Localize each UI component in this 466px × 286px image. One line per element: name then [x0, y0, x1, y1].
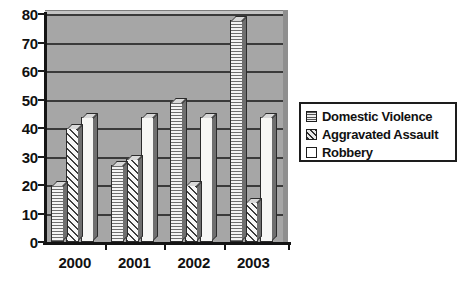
bar-2000-aggravated-assault: [66, 128, 79, 242]
bar-side-face: [63, 181, 68, 241]
bar-2003-domestic-violence: [230, 20, 243, 242]
bar-2000-domestic-violence: [51, 185, 64, 242]
bar-side-face: [153, 113, 158, 241]
diagonal-swatch-icon: [306, 129, 317, 140]
bar-chart: 01020304050607080 2000200120022003 Domes…: [0, 0, 466, 286]
y-axis-tick-label: 70: [4, 35, 38, 50]
y-axis-tick-mark: [38, 99, 45, 101]
legend-item[interactable]: Aggravated Assault: [306, 126, 455, 143]
y-axis-tick-mark: [38, 13, 45, 15]
y-axis-tick-label: 60: [4, 64, 38, 79]
y-axis-tick-label: 0: [4, 235, 38, 250]
bar-side-face: [182, 98, 187, 241]
bar-side-face: [242, 16, 247, 241]
chart-legend: Domestic ViolenceAggravated AssaultRobbe…: [299, 102, 457, 162]
legend-item-label: Robbery: [322, 146, 373, 159]
bar-side-face: [123, 161, 128, 241]
y-axis-tick-mark: [38, 156, 45, 158]
x-axis-tick-mark: [105, 243, 107, 250]
y-axis-tick-label: 80: [4, 7, 38, 22]
y-axis-tick-mark: [38, 241, 45, 243]
legend-item-label: Aggravated Assault: [322, 128, 438, 141]
bar-2000-robbery: [81, 117, 94, 242]
legend-item[interactable]: Robbery: [306, 144, 455, 161]
x-axis-tick-mark: [224, 243, 226, 250]
bar-side-face: [93, 113, 98, 241]
x-axis-tick-mark: [288, 243, 290, 250]
bar-side-face: [257, 198, 262, 241]
y-axis-tick-mark: [38, 42, 45, 44]
x-axis-line: [43, 242, 291, 245]
y-axis-tick-label: 30: [4, 149, 38, 164]
y-axis-tick-mark: [38, 184, 45, 186]
legend-item[interactable]: Domestic Violence: [306, 108, 455, 125]
bar-side-face: [138, 155, 143, 241]
y-axis-tick-label: 50: [4, 92, 38, 107]
x-axis-category-label: 2002: [164, 254, 224, 271]
hlines-swatch-icon: [306, 111, 317, 122]
bar-2001-domestic-violence: [111, 165, 124, 242]
legend-item-label: Domestic Violence: [322, 110, 432, 123]
bar-2002-domestic-violence: [170, 102, 183, 242]
y-axis-tick-mark: [38, 70, 45, 72]
bar-side-face: [197, 181, 202, 241]
y-axis-tick-label: 10: [4, 206, 38, 221]
y-axis-tick-label: 20: [4, 178, 38, 193]
x-axis-category-label: 2003: [223, 254, 283, 271]
y-axis-tick-label: 40: [4, 121, 38, 136]
bar-side-face: [272, 113, 277, 241]
bar-side-face: [212, 113, 217, 241]
bar-2002-aggravated-assault: [185, 185, 198, 242]
x-axis-category-label: 2000: [45, 254, 105, 271]
solid-swatch-icon: [306, 147, 317, 158]
y-axis-tick-mark: [38, 127, 45, 129]
bar-side-face: [78, 124, 83, 241]
bar-2002-robbery: [200, 117, 213, 242]
bars-layer: [45, 14, 283, 242]
plot-area-right-face: [283, 10, 288, 242]
y-axis-tick-labels: 01020304050607080: [0, 0, 38, 286]
y-axis-tick-mark: [38, 213, 45, 215]
x-axis-category-label: 2001: [104, 254, 164, 271]
x-axis-tick-mark: [164, 243, 166, 250]
